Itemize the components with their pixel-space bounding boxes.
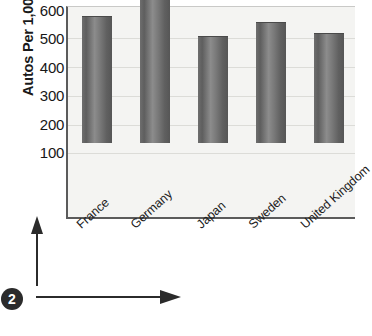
y-axis-tick-label: 300 [30, 88, 64, 103]
caption-strip [0, 320, 355, 336]
y-axis-tick-label: 500 [30, 31, 64, 46]
bar-germany [140, 0, 170, 143]
y-axis-tick-label: 200 [30, 117, 64, 132]
bar-slot [126, 7, 184, 217]
bar-slot [184, 7, 242, 217]
y-axis-tick-label: 600 [30, 3, 64, 18]
y-axis-tick-label: 400 [30, 60, 64, 75]
bar-united-kingdom [314, 33, 344, 143]
bar-sweden [256, 22, 286, 143]
bar-slot [242, 7, 300, 217]
bar-slot [68, 7, 126, 217]
bar-japan [198, 36, 228, 143]
plot-area [66, 6, 355, 219]
step-badge-2: 2 [1, 288, 23, 310]
arrow-right-icon [36, 288, 181, 306]
bar-france [82, 16, 112, 143]
bar-series [68, 7, 355, 217]
arrow-up-icon [30, 216, 44, 286]
x-axis-tick-labels: France Germany Japan Sweden United Kingd… [66, 221, 355, 331]
y-axis-tick-label: 100 [30, 145, 64, 160]
y-axis-tick-labels: 600 500 400 300 200 100 [30, 0, 66, 220]
plot-inner [68, 7, 355, 217]
